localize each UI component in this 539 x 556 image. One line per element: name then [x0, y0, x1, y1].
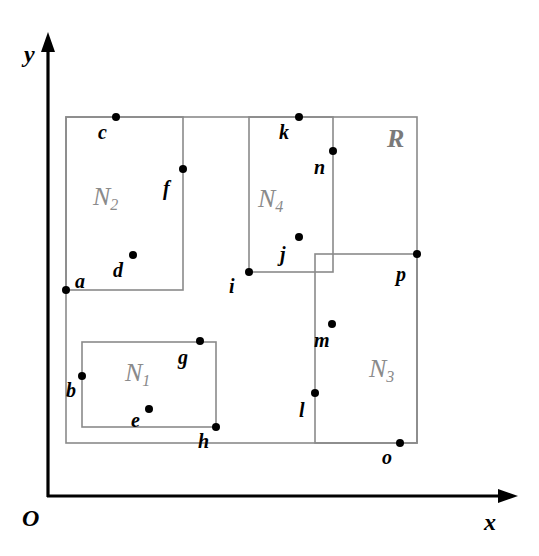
point-l-label: l — [299, 399, 305, 421]
point-d-label: d — [113, 259, 124, 281]
point-n — [329, 147, 337, 155]
region-N4-label: N4 — [257, 184, 283, 215]
point-k-label: k — [279, 121, 289, 143]
region-R-label: R — [386, 124, 404, 153]
point-d — [129, 251, 137, 259]
origin-label: O — [22, 505, 39, 531]
point-g — [196, 337, 204, 345]
point-i — [245, 268, 253, 276]
point-m-label: m — [314, 329, 330, 351]
region-N2-label: N2 — [92, 182, 118, 213]
y-axis-label: y — [21, 41, 35, 67]
point-k — [295, 113, 303, 121]
x-axis-label: x — [483, 509, 496, 535]
x-axis-arrow-icon — [498, 489, 518, 503]
point-b-label: b — [66, 379, 76, 401]
point-b — [78, 372, 86, 380]
point-g-label: g — [177, 346, 188, 369]
region-N2-rect — [66, 117, 183, 290]
point-c-label: c — [98, 121, 107, 143]
y-axis-arrow-icon — [41, 32, 55, 52]
point-h — [212, 423, 220, 431]
point-e-label: e — [131, 409, 140, 431]
point-i-label: i — [229, 275, 235, 297]
point-p-label: p — [394, 263, 406, 286]
point-c — [112, 113, 120, 121]
point-m — [328, 320, 336, 328]
point-j-label: j — [277, 243, 286, 266]
point-f-label: f — [163, 177, 172, 200]
point-o-label: o — [382, 446, 392, 468]
point-n-label: n — [314, 156, 325, 178]
point-p — [413, 250, 421, 258]
spatial-index-diagram: y O x R N2 N4 N3 N1 a b c d e f g h i j … — [0, 0, 539, 556]
point-f — [179, 165, 187, 173]
point-o — [396, 439, 404, 447]
point-e — [145, 405, 153, 413]
point-l — [311, 389, 319, 397]
point-a — [62, 286, 70, 294]
point-h-label: h — [198, 430, 209, 452]
point-j — [295, 233, 303, 241]
region-N1-label: N1 — [124, 358, 150, 389]
region-N3-label: N3 — [368, 354, 394, 385]
point-a-label: a — [75, 270, 85, 292]
